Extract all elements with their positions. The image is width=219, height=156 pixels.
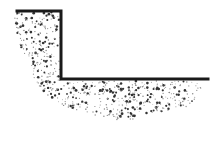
step-cross-section-diagram <box>0 0 219 156</box>
soil-stipple-fill <box>14 11 201 120</box>
step-edge-line <box>17 11 208 79</box>
